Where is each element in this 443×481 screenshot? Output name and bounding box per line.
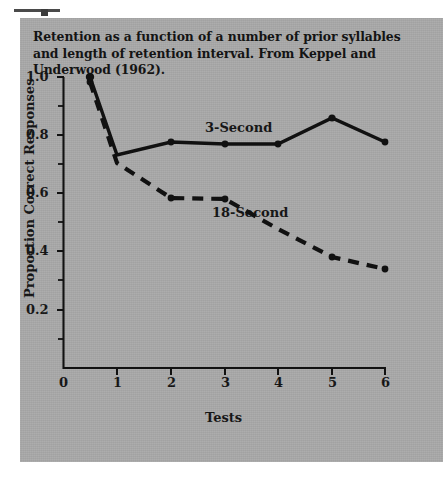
series-18-second-markers (87, 79, 389, 273)
figure-panel: Retention as a function of a number of p… (20, 18, 443, 462)
series-3-second-markers (86, 73, 389, 148)
figure-page: Retention as a function of a number of p… (0, 0, 443, 481)
chart-plot-area (20, 18, 443, 462)
page-top-rule-tick (41, 9, 48, 16)
series-3-second-line (90, 77, 385, 155)
page-top-rule (14, 9, 60, 12)
figure-caption: Retention as a function of a number of p… (33, 29, 428, 79)
series-18-second-line (90, 82, 385, 269)
